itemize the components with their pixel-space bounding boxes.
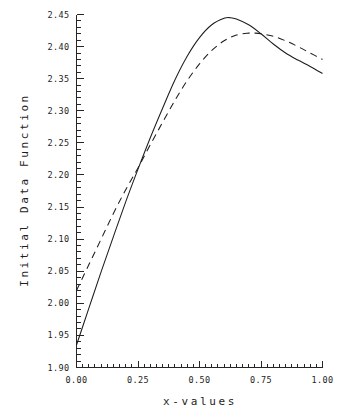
y-tick-label: 1.95 <box>47 330 69 340</box>
solid-curve <box>77 18 323 345</box>
y-axis-label: Initial Data Function <box>18 93 31 287</box>
line-chart: 0.000.250.500.751.00 1.901.952.002.052.1… <box>0 0 342 415</box>
y-tick-label: 2.10 <box>47 234 69 244</box>
y-tick-label: 2.35 <box>47 74 69 84</box>
axes-group <box>77 15 323 368</box>
y-tick-label: 2.40 <box>47 42 69 52</box>
y-tick-label: 2.15 <box>47 202 69 212</box>
x-axis-label: x-values <box>163 395 237 408</box>
y-tick-label: 1.90 <box>47 363 69 373</box>
x-tick-label: 0.75 <box>250 375 272 385</box>
x-tick-labels: 0.000.250.500.751.00 <box>65 375 333 385</box>
x-tick-label: 1.00 <box>311 375 333 385</box>
y-tick-label: 2.30 <box>47 106 69 116</box>
x-tick-label: 0.50 <box>188 375 210 385</box>
y-tick-labels: 1.901.952.002.052.102.152.202.252.302.35… <box>47 10 69 373</box>
data-curves-group <box>77 18 323 345</box>
x-tick-label: 0.00 <box>65 375 87 385</box>
dashed-curve <box>77 33 323 291</box>
tick-marks-group <box>77 15 323 368</box>
chart-container: 0.000.250.500.751.00 1.901.952.002.052.1… <box>0 0 342 415</box>
y-tick-label: 2.45 <box>47 10 69 20</box>
y-tick-label: 2.05 <box>47 266 69 276</box>
y-tick-label: 2.25 <box>47 138 69 148</box>
y-tick-label: 2.20 <box>47 170 69 180</box>
x-tick-label: 0.25 <box>127 375 149 385</box>
y-tick-label: 2.00 <box>47 298 69 308</box>
